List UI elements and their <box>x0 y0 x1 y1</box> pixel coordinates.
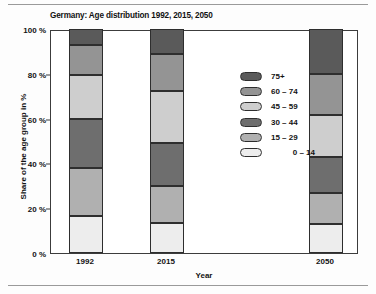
legend-label: 15 – 29 <box>271 133 315 142</box>
legend-swatch-icon <box>240 148 262 157</box>
figure-container: Germany: Age distribution 1992, 2015, 20… <box>0 0 376 294</box>
bar-segment[interactable] <box>150 54 184 91</box>
chart-title: Germany: Age distribution 1992, 2015, 20… <box>50 11 213 20</box>
x-tick-label-2050: 2050 <box>295 257 355 266</box>
figure-top-rule <box>8 4 368 5</box>
bar-segment[interactable] <box>69 45 103 75</box>
legend-label: 60 – 74 <box>271 87 315 96</box>
bar-segment[interactable] <box>309 193 343 224</box>
legend-swatch-icon <box>240 72 262 81</box>
bar-segment[interactable] <box>69 29 103 45</box>
legend-item[interactable]: 75+ <box>240 69 336 84</box>
bar-segment[interactable] <box>150 29 184 54</box>
legend-swatch-icon <box>240 87 262 96</box>
y-tick-label: 100 % <box>0 26 46 35</box>
x-tick-label-2015: 2015 <box>136 257 196 266</box>
legend-item[interactable]: 45 – 59 <box>240 99 336 114</box>
legend-swatch-icon <box>240 118 262 127</box>
bar-segment[interactable] <box>69 216 103 253</box>
bar-segment[interactable] <box>150 186 184 223</box>
legend-item[interactable]: 15 – 29 <box>240 130 336 145</box>
y-tick-label: 0 % <box>0 250 46 259</box>
bar-2015[interactable] <box>150 29 184 253</box>
legend-label: 30 – 44 <box>271 118 315 127</box>
bar-segment[interactable] <box>309 157 343 193</box>
bar-segment[interactable] <box>150 143 184 186</box>
bar-segment[interactable] <box>150 223 184 253</box>
legend-item[interactable]: 60 – 74 <box>240 84 336 99</box>
plot-area: 75+60 – 7445 – 5930 – 4415 – 290 – 14 <box>50 30 358 254</box>
figure-bottom-rule <box>8 285 368 286</box>
legend-item[interactable]: 0 – 14 <box>240 145 336 160</box>
legend-label: 45 – 59 <box>271 102 315 111</box>
legend-label: 0 – 14 <box>271 148 319 157</box>
chart-legend: 75+60 – 7445 – 5930 – 4415 – 290 – 14 <box>240 69 336 160</box>
bar-segment[interactable] <box>150 91 184 144</box>
legend-item[interactable]: 30 – 44 <box>240 115 336 130</box>
legend-swatch-icon <box>240 133 262 142</box>
legend-label: 75+ <box>271 72 315 81</box>
legend-swatch-icon <box>240 102 262 111</box>
x-tick-label-1992: 1992 <box>55 257 115 266</box>
bar-1992[interactable] <box>69 29 103 253</box>
bar-segment[interactable] <box>69 75 103 119</box>
bar-segment[interactable] <box>69 119 103 168</box>
bar-segment[interactable] <box>309 29 343 74</box>
y-axis-title: Share of the age group in % <box>19 62 28 232</box>
x-axis-title: Year <box>50 271 358 280</box>
bar-segment[interactable] <box>309 224 343 253</box>
bar-segment[interactable] <box>69 168 103 216</box>
